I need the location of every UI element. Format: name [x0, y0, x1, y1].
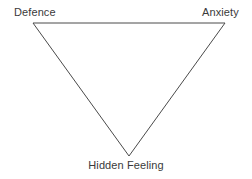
triangle-shape [0, 0, 252, 179]
vertex-label-hidden-feeling: Hidden Feeling [0, 159, 252, 171]
vertex-label-anxiety: Anxiety [202, 6, 239, 18]
triangle-outline [33, 23, 225, 156]
diagram-canvas: Defence Anxiety Hidden Feeling [0, 0, 252, 179]
vertex-label-defence: Defence [14, 6, 56, 18]
